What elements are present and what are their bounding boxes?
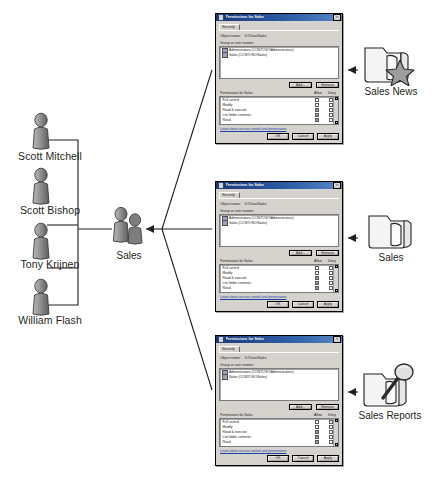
apply-button[interactable]: Apply (317, 301, 339, 308)
permission-row[interactable]: Full control (221, 98, 338, 103)
allow-cell[interactable] (310, 108, 324, 112)
permissions-dialog-sales-news[interactable]: Permissions for Sales × Security Object … (215, 13, 343, 144)
scroll-up-icon[interactable] (335, 419, 338, 422)
dialog-titlebar[interactable]: Permissions for Sales × (216, 14, 342, 21)
remove-button[interactable]: Remove (316, 250, 339, 257)
permission-row[interactable]: Read & execute (221, 108, 338, 113)
scroll-down-icon[interactable] (335, 443, 338, 446)
help-link[interactable]: Learn about access control and permissio… (219, 449, 339, 453)
add-button[interactable]: Add... (289, 404, 312, 411)
allow-checkbox[interactable] (315, 108, 319, 112)
group-list[interactable]: Administrators (CONTOSO\Administrators) … (219, 214, 339, 247)
allow-cell[interactable] (310, 266, 324, 270)
help-link[interactable]: Learn about access control and permissio… (219, 127, 339, 131)
allow-checkbox[interactable] (315, 440, 319, 444)
allow-cell[interactable] (310, 103, 324, 107)
permissions-scrollbar[interactable] (333, 265, 338, 292)
tab-security[interactable]: Security (219, 24, 240, 30)
allow-checkbox[interactable] (315, 118, 319, 122)
add-button[interactable]: Add... (289, 250, 312, 257)
close-icon[interactable]: × (333, 182, 341, 190)
add-button[interactable]: Add... (289, 82, 312, 89)
close-icon[interactable]: × (333, 14, 341, 22)
users-icon (222, 374, 228, 380)
allow-checkbox[interactable] (315, 435, 319, 439)
allow-checkbox[interactable] (315, 98, 319, 102)
cancel-button[interactable]: Cancel (292, 455, 314, 462)
remove-button[interactable]: Remove (316, 404, 339, 411)
allow-checkbox[interactable] (315, 113, 319, 117)
permission-row[interactable]: Read (221, 118, 338, 123)
permission-row[interactable]: Modify (221, 103, 338, 108)
dialog-body: Security Object name: D:\Data\Sales Grou… (216, 343, 342, 465)
allow-checkbox[interactable] (315, 420, 319, 424)
permission-row[interactable]: List folder contents (221, 113, 338, 118)
cancel-button[interactable]: Cancel (292, 301, 314, 308)
permission-row[interactable]: Full control (221, 420, 338, 425)
scroll-up-icon[interactable] (335, 97, 338, 100)
permissions-scrollbar[interactable] (333, 419, 338, 446)
allow-cell[interactable] (310, 440, 324, 444)
group-list[interactable]: Administrators (CONTOSO\Administrators) … (219, 46, 339, 79)
scroll-up-icon[interactable] (335, 265, 338, 268)
close-icon[interactable]: × (333, 336, 341, 344)
allow-cell[interactable] (310, 271, 324, 275)
permissions-list[interactable]: Full control Modify Read & execute List … (219, 96, 339, 125)
allow-cell[interactable] (310, 276, 324, 280)
permission-row[interactable]: List folder contents (221, 281, 338, 286)
tab-security[interactable]: Security (219, 192, 240, 198)
list-item[interactable]: Sales (CONTOSO\Sales) (221, 375, 337, 380)
list-item[interactable]: Sales (CONTOSO\Sales) (221, 221, 337, 226)
allow-checkbox[interactable] (315, 425, 319, 429)
group-list[interactable]: Administrators (CONTOSO\Administrators) … (219, 368, 339, 401)
allow-checkbox[interactable] (315, 266, 319, 270)
permissions-list[interactable]: Full control Modify Read & execute List … (219, 418, 339, 447)
allow-checkbox[interactable] (315, 103, 319, 107)
allow-cell[interactable] (310, 286, 324, 290)
allow-cell[interactable] (310, 425, 324, 429)
allow-checkbox[interactable] (315, 276, 319, 280)
permission-row[interactable]: Read & execute (221, 430, 338, 435)
remove-button[interactable]: Remove (316, 82, 339, 89)
permissions-dialog-sales[interactable]: Permissions for Sales × Security Object … (215, 181, 343, 312)
scroll-down-icon[interactable] (335, 289, 338, 292)
cancel-button[interactable]: Cancel (292, 133, 314, 140)
allow-cell[interactable] (310, 430, 324, 434)
permission-row[interactable]: Modify (221, 271, 338, 276)
permission-row[interactable]: List folder contents (221, 435, 338, 440)
dialog-titlebar[interactable]: Permissions for Sales × (216, 336, 342, 343)
allow-cell[interactable] (310, 98, 324, 102)
apply-button[interactable]: Apply (317, 455, 339, 462)
permission-row[interactable]: Read (221, 286, 338, 291)
allow-cell[interactable] (310, 281, 324, 285)
permissions-scrollbar[interactable] (333, 97, 338, 124)
tab-security[interactable]: Security (219, 346, 240, 352)
permission-name: List folder contents (221, 113, 310, 117)
allow-cell[interactable] (310, 420, 324, 424)
help-link[interactable]: Learn about access control and permissio… (219, 295, 339, 299)
ok-button[interactable]: OK (267, 133, 289, 140)
apply-button[interactable]: Apply (317, 133, 339, 140)
scroll-down-icon[interactable] (335, 121, 338, 124)
allow-checkbox[interactable] (315, 286, 319, 290)
permission-row[interactable]: Modify (221, 425, 338, 430)
allow-checkbox[interactable] (315, 281, 319, 285)
permissions-dialog-sales-reports[interactable]: Permissions for Sales × Security Object … (215, 335, 343, 466)
list-item[interactable]: Sales (CONTOSO\Sales) (221, 53, 337, 58)
dialog-titlebar[interactable]: Permissions for Sales × (216, 182, 342, 189)
allow-cell[interactable] (310, 113, 324, 117)
allow-cell[interactable] (310, 118, 324, 122)
group-label-sales: Sales (99, 250, 159, 261)
permission-row[interactable]: Read & execute (221, 276, 338, 281)
allow-cell[interactable] (310, 435, 324, 439)
ok-button[interactable]: OK (267, 301, 289, 308)
permissions-list[interactable]: Full control Modify Read & execute List … (219, 264, 339, 293)
permission-name: Read (221, 286, 310, 290)
allow-checkbox[interactable] (315, 271, 319, 275)
allow-checkbox[interactable] (315, 430, 319, 434)
permission-row[interactable]: Read (221, 440, 338, 445)
permission-row[interactable]: Full control (221, 266, 338, 271)
ok-button[interactable]: OK (267, 455, 289, 462)
users-icon (222, 52, 228, 58)
permission-name: Read & execute (221, 430, 310, 434)
